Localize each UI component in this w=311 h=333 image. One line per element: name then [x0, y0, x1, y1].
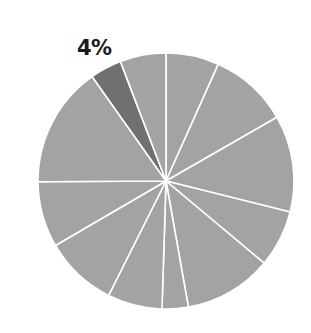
pie-chart: [0, 0, 311, 333]
highlighted-slice-label: 4%: [77, 36, 112, 60]
